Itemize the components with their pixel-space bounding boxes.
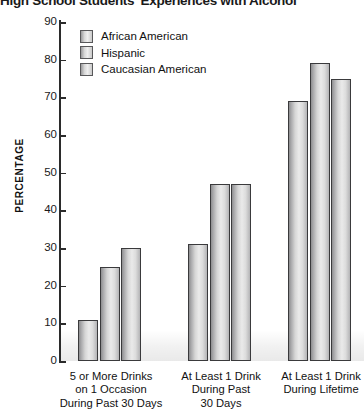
bar [78,320,98,361]
x-axis-category-label-line: During Lifetime [246,383,364,396]
bar [310,63,330,361]
bar [210,184,230,361]
x-axis-category-label-line: 30 Days [146,397,296,410]
x-axis-category-label-line: At Least 1 Drink [246,370,364,383]
bar [100,267,120,361]
bar [288,101,308,361]
bar [331,79,351,362]
bar [231,184,251,361]
x-axis-category-label: At Least 1 DrinkDuring Lifetime [246,370,364,397]
chart-bars [0,0,364,411]
chart-plot-area: PERCENTAGE 9080706050403020100 African A… [0,0,364,411]
bar [188,244,208,361]
bar [121,248,141,361]
